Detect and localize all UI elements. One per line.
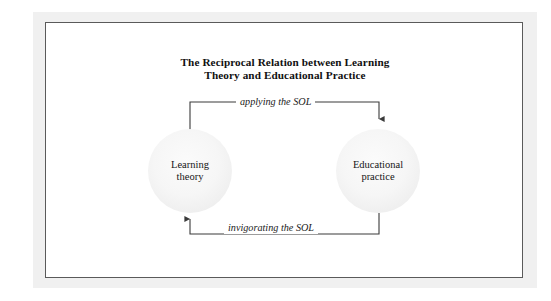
node-learning-theory-label-line-2: theory (171, 171, 209, 184)
node-educational-practice-label-line-2: practice (353, 171, 403, 184)
edge-label-applying: applying the SOL (236, 96, 315, 108)
diagram-canvas: Learning theory Educational practice app… (46, 23, 524, 279)
node-educational-practice: Educational practice (336, 129, 420, 213)
figure-root: The Reciprocal Relation between Learning… (0, 0, 551, 301)
node-educational-practice-label: Educational practice (353, 159, 403, 184)
node-learning-theory: Learning theory (148, 129, 232, 213)
edge-label-invigorating: invigorating the SOL (224, 222, 318, 234)
node-learning-theory-label-line-1: Learning (171, 159, 209, 172)
node-learning-theory-label: Learning theory (171, 159, 209, 184)
figure-frame-border: The Reciprocal Relation between Learning… (45, 22, 523, 278)
node-educational-practice-label-line-1: Educational (353, 159, 403, 172)
diagram-connectors (46, 23, 524, 279)
